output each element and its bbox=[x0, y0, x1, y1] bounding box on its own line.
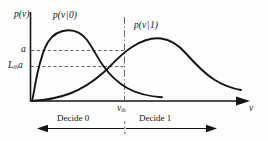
vth-sub: th bbox=[121, 107, 126, 113]
lth-a-tail: a bbox=[18, 60, 23, 70]
region-label-decide-0: Decide 0 bbox=[57, 114, 89, 123]
x-tick-label-vth: vth bbox=[117, 104, 126, 114]
y-tick-label-a: a bbox=[21, 45, 26, 55]
decide-1-arrow-head-icon bbox=[206, 125, 217, 132]
figure-container: p(v) v p(v|0) p(v|1) a Ltha vth Decide 0… bbox=[0, 0, 268, 141]
x-axis-label: v bbox=[249, 104, 253, 114]
curve-label-1-tail: 1) bbox=[150, 20, 158, 30]
y-tick-label-lth-a: Ltha bbox=[8, 61, 23, 71]
curve-label-p-v-given-0: p(v|0) bbox=[53, 11, 77, 21]
y-axis-label: p(v) bbox=[14, 10, 29, 20]
curve-label-p-v-given-1: p(v|1) bbox=[134, 21, 158, 31]
curve-label-0-main: p(v bbox=[53, 10, 65, 20]
region-label-decide-1: Decide 1 bbox=[139, 114, 171, 123]
curve-label-1-main: p(v bbox=[134, 20, 146, 30]
curve-label-0-tail: 0) bbox=[69, 10, 77, 20]
x-axis-arrow-icon bbox=[236, 96, 250, 105]
decide-0-arrow-head-icon bbox=[37, 125, 48, 132]
density-curve-p-v-given-1 bbox=[33, 38, 241, 100]
